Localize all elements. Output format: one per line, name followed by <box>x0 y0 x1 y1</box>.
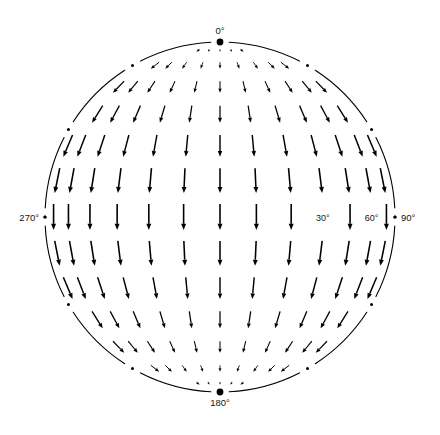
label-270deg: 270° <box>19 212 39 223</box>
arrow-head <box>219 368 222 372</box>
arrow-head <box>287 260 292 266</box>
arrow-shaft <box>113 341 121 349</box>
limb-tick-dot <box>131 64 134 67</box>
figure-root: 0° 180° 270° 90° 30° 60° <box>0 0 440 435</box>
arrow-head <box>277 117 281 122</box>
arrow-shaft <box>356 277 362 293</box>
arrow-shaft <box>184 62 186 65</box>
limb-tick-dot <box>306 64 309 67</box>
arrow-head <box>253 187 258 193</box>
arrow-shaft <box>165 365 169 369</box>
arrow-shaft <box>201 365 202 368</box>
arrow-head <box>218 260 223 266</box>
arrow-head <box>230 382 232 385</box>
arrow-shaft <box>302 81 309 89</box>
arrow-head <box>81 293 85 299</box>
arrow-shaft <box>119 168 121 187</box>
arrow-shaft <box>184 168 185 187</box>
arrow-shaft <box>91 241 94 260</box>
arrow-shaft <box>113 106 120 118</box>
arrow-head <box>251 293 255 299</box>
arrow-head <box>254 224 259 230</box>
arrow-head <box>91 259 96 265</box>
arrow-head <box>284 151 288 157</box>
arrow-shaft <box>118 241 120 260</box>
equator-dot-90deg <box>393 215 396 218</box>
arrow-head <box>218 89 221 93</box>
limb-arc <box>229 373 299 392</box>
arrow-shaft <box>255 365 257 368</box>
arrow-head <box>92 117 97 123</box>
arrow-head <box>97 150 101 156</box>
arrow-shaft <box>381 241 385 260</box>
arrow-head <box>367 293 371 299</box>
arrow-shaft <box>289 241 291 260</box>
arrow-head <box>247 323 251 328</box>
arrow-head <box>207 382 209 385</box>
limb-arc <box>45 226 64 296</box>
arrow-shaft <box>131 81 138 89</box>
arrow-head <box>208 49 210 52</box>
arrow-shaft <box>128 341 135 349</box>
arrow-shaft <box>125 135 129 151</box>
arrow-head <box>219 383 221 385</box>
arrow-head <box>384 224 389 230</box>
arrow-head <box>116 187 121 193</box>
limb-arc <box>141 42 211 61</box>
arrow-head <box>319 187 324 193</box>
arrow-shaft <box>153 277 156 293</box>
arrow-shaft <box>170 341 173 349</box>
arrow-head <box>313 151 317 157</box>
arrow-shaft <box>154 62 159 66</box>
arrow-head <box>87 224 92 230</box>
arrow-shaft <box>150 168 152 187</box>
arrow-shaft <box>186 135 188 151</box>
arrow-shaft <box>133 311 138 323</box>
arrow-head <box>125 293 129 299</box>
equator-dot-270deg <box>43 215 46 218</box>
arrow-shaft <box>150 81 155 89</box>
arrow-head <box>285 348 289 353</box>
arrow-shaft <box>92 311 100 323</box>
arrow-head <box>337 323 342 329</box>
arrow-shaft <box>56 168 60 187</box>
arrow-shaft <box>268 62 272 66</box>
arrow-head <box>379 259 384 265</box>
arrow-shaft <box>77 277 83 293</box>
arrow-shaft <box>354 135 360 151</box>
arrow-shaft <box>252 135 254 151</box>
arrow-shaft <box>237 62 238 65</box>
arrow-head <box>201 65 204 69</box>
arrow-head <box>172 348 175 353</box>
arrow-shaft <box>244 341 246 349</box>
arrow-head <box>115 224 120 230</box>
arrow-shaft <box>255 241 256 260</box>
arrow-shaft <box>288 341 293 349</box>
arrow-head <box>218 151 222 157</box>
limb-arc <box>229 42 299 61</box>
arrow-shaft <box>168 62 172 66</box>
arrow-shaft <box>248 106 250 118</box>
limb-arc <box>141 373 211 392</box>
arrow-shaft <box>194 341 196 349</box>
arrow-shaft <box>305 341 312 349</box>
arrow-shaft <box>172 81 175 89</box>
arrow-shaft <box>323 311 330 323</box>
arrow-shaft <box>267 341 270 349</box>
arrow-shaft <box>313 277 317 293</box>
arrow-head <box>154 293 158 299</box>
arrow-shaft <box>337 277 342 293</box>
arrow-head <box>68 293 72 299</box>
limb-arc <box>315 312 366 363</box>
arrow-shaft <box>300 106 305 118</box>
arrow-shaft <box>98 277 103 293</box>
arrow-shaft <box>311 135 315 151</box>
arrow-head <box>182 260 187 266</box>
arrow-shaft <box>110 311 117 323</box>
arrow-head <box>147 88 151 93</box>
arrow-head <box>267 88 270 93</box>
arrow-head <box>335 293 339 299</box>
arrow-head <box>251 151 255 157</box>
arrow-head <box>184 151 188 157</box>
arrow-head <box>275 323 279 328</box>
